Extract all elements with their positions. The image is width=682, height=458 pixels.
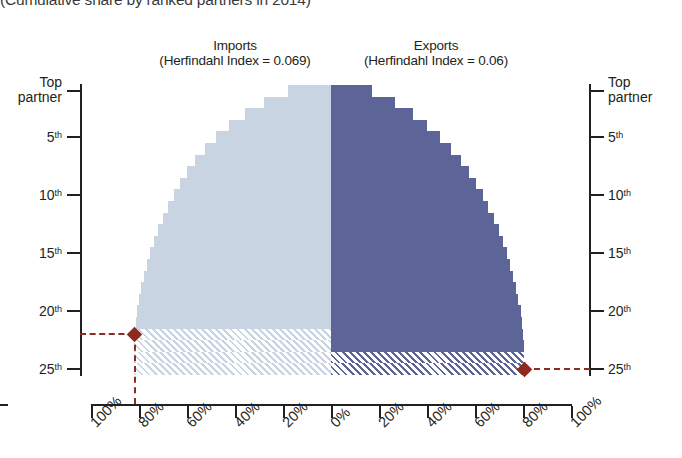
bar-exports-rank-17 bbox=[331, 271, 513, 283]
y-label-left-1: 5th bbox=[0, 128, 62, 144]
bar-exports-rank-9 bbox=[331, 178, 476, 190]
chart-root: (Cumulative share by ranked partners in … bbox=[0, 0, 682, 458]
y-tick-left-5 bbox=[67, 368, 80, 370]
bar-exports-rank-12 bbox=[331, 213, 494, 225]
y-tick-right-1 bbox=[591, 136, 604, 138]
y-tick-left-0 bbox=[67, 90, 80, 92]
y-label-right-4: 20th bbox=[608, 302, 678, 318]
bar-exports-rank-4 bbox=[331, 120, 427, 132]
y-label-right-1: 5th bbox=[608, 128, 678, 144]
bar-exports-rank-8 bbox=[331, 166, 469, 178]
y-label-right-5: 25th bbox=[608, 360, 678, 376]
bar-exports-rank-11 bbox=[331, 201, 488, 213]
y-tick-left-2 bbox=[67, 194, 80, 196]
bar-exports-rank-16 bbox=[331, 259, 510, 271]
imports-annotation-line-vertical bbox=[134, 334, 136, 404]
y-label-right-2: 10th bbox=[608, 186, 678, 202]
bar-exports-rank-14 bbox=[331, 236, 503, 248]
x-label-0: 100% bbox=[87, 393, 125, 431]
panel-header-exports-name: Exports bbox=[336, 38, 536, 53]
bars-exports bbox=[91, 85, 571, 375]
y-tick-left-3 bbox=[67, 252, 80, 254]
bar-exports-rank-2 bbox=[331, 97, 395, 109]
bar-exports-rank-25 bbox=[331, 363, 524, 375]
panel-header-exports-subtitle: (Herfindahl Index = 0.06) bbox=[336, 53, 536, 68]
y-label-right-3: 15th bbox=[608, 244, 678, 260]
y-tick-right-3 bbox=[591, 252, 604, 254]
y-label-left-3: 15th bbox=[0, 244, 62, 260]
x-label-10: 100% bbox=[567, 393, 605, 431]
y-label-right-0: Toppartner bbox=[608, 75, 678, 105]
y-axis-right-spine bbox=[589, 84, 591, 376]
panel-header-exports: Exports (Herfindahl Index = 0.06) bbox=[336, 38, 536, 68]
y-tick-left-4 bbox=[67, 310, 80, 312]
bar-exports-rank-22 bbox=[331, 329, 523, 341]
panel-header-imports-name: Imports bbox=[140, 38, 330, 53]
bar-exports-rank-6 bbox=[331, 143, 451, 155]
panel-header-imports-subtitle: (Herfindahl Index = 0.069) bbox=[140, 53, 330, 68]
bar-exports-rank-3 bbox=[331, 108, 413, 120]
bar-exports-rank-19 bbox=[331, 294, 518, 306]
y-label-left-5: 25th bbox=[0, 360, 62, 376]
y-label-left-0: Toppartner bbox=[0, 75, 62, 105]
y-tick-right-4 bbox=[591, 310, 604, 312]
y-tick-right-2 bbox=[591, 194, 604, 196]
exports-annotation-line-horizontal bbox=[524, 368, 590, 370]
bar-exports-rank-21 bbox=[331, 317, 522, 329]
bar-exports-rank-18 bbox=[331, 282, 516, 294]
bar-exports-rank-5 bbox=[331, 131, 440, 143]
y-tick-right-5 bbox=[591, 368, 604, 370]
bar-exports-rank-1 bbox=[331, 85, 372, 97]
axis-corner-stub-horizontal bbox=[0, 404, 8, 406]
bar-exports-rank-7 bbox=[331, 155, 461, 167]
y-label-left-2: 10th bbox=[0, 186, 62, 202]
bar-exports-rank-20 bbox=[331, 305, 521, 317]
y-tick-right-0 bbox=[591, 90, 604, 92]
y-label-left-4: 20th bbox=[0, 302, 62, 318]
y-axis-left-spine bbox=[80, 84, 82, 376]
bar-exports-rank-13 bbox=[331, 224, 499, 236]
bar-exports-rank-10 bbox=[331, 189, 483, 201]
chart-title: (Cumulative share by ranked partners in … bbox=[0, 0, 420, 9]
bar-exports-rank-24 bbox=[331, 352, 524, 364]
plot-area bbox=[91, 85, 571, 375]
bar-exports-rank-15 bbox=[331, 247, 507, 259]
bar-exports-rank-23 bbox=[331, 340, 524, 352]
panel-header-imports: Imports (Herfindahl Index = 0.069) bbox=[140, 38, 330, 68]
y-tick-left-1 bbox=[67, 136, 80, 138]
